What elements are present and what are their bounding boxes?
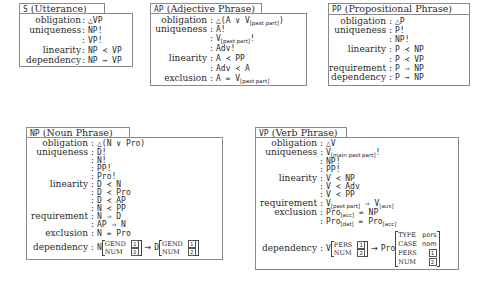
constraint-list: obligation:△P uniqueness:P! :NP! lineari… bbox=[328, 14, 470, 86]
constraint-list: obligation:△V uniqueness:V[main past par… bbox=[255, 137, 459, 270]
constraint-list: obligation:△(A ∨ V[past part]) uniquenes… bbox=[150, 13, 307, 86]
feature-structure: TYPEpers CASEnom PERS1 NUM2 bbox=[395, 231, 439, 267]
feature-structure: GEND1 NUM2 bbox=[102, 240, 142, 256]
constraint-list: obligation:△(N ∨ Pro) uniqueness:D! :N! … bbox=[26, 137, 223, 260]
constraint-list: obligation:△VP uniqueness:NP! :VP! linea… bbox=[19, 13, 133, 67]
feature-structure: GEND1 NUM2 bbox=[159, 240, 199, 256]
feature-structure: PERS1 NUM2 bbox=[331, 241, 368, 257]
